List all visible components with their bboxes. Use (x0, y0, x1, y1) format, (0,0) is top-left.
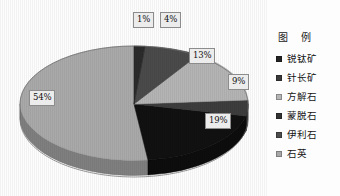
legend: 图 例 锐钛矿 针长矿 方解石 蒙脱石 伊利石 石英 (276, 29, 340, 163)
legend-swatch-icon-montmorillonite (276, 113, 282, 119)
legend-swatch-icon-calcite (276, 94, 282, 100)
legend-item-montmorillonite[interactable]: 蒙脱石 (276, 106, 340, 125)
legend-item-calcite[interactable]: 方解石 (276, 87, 340, 106)
pie-label-quartz: 54% (29, 90, 55, 106)
legend-swatch-icon-needle-feldspar (276, 75, 282, 81)
legend-label-montmorillonite: 蒙脱石 (287, 111, 317, 121)
chart-page: 1% 4% 13% 9% 19% 54% 图 例 锐钛矿 针长矿 方解石 蒙脱石… (0, 0, 340, 196)
pie-label-montmorillonite: 9% (228, 74, 249, 90)
legend-item-quartz[interactable]: 石英 (276, 144, 340, 163)
legend-label-calcite: 方解石 (287, 92, 317, 102)
legend-swatch-icon-quartz (276, 151, 282, 157)
legend-title: 图 例 (278, 29, 340, 44)
legend-label-illite: 伊利石 (287, 130, 317, 140)
legend-label-needle-feldspar: 针长矿 (287, 73, 317, 83)
pie-label-needle-feldspar: 4% (160, 12, 181, 28)
legend-item-illite[interactable]: 伊利石 (276, 125, 340, 144)
legend-item-needle-feldspar[interactable]: 针长矿 (276, 68, 340, 87)
legend-swatch-icon-anatase (276, 56, 282, 62)
pie-label-calcite: 13% (189, 48, 215, 64)
pie-chart: 1% 4% 13% 9% 19% 54% (0, 0, 268, 196)
legend-item-anatase[interactable]: 锐钛矿 (276, 49, 340, 68)
legend-label-quartz: 石英 (287, 149, 307, 159)
legend-swatch-icon-illite (276, 132, 282, 138)
legend-label-anatase: 锐钛矿 (287, 54, 317, 64)
pie-label-illite: 19% (205, 113, 231, 129)
pie-label-anatase: 1% (133, 12, 154, 28)
